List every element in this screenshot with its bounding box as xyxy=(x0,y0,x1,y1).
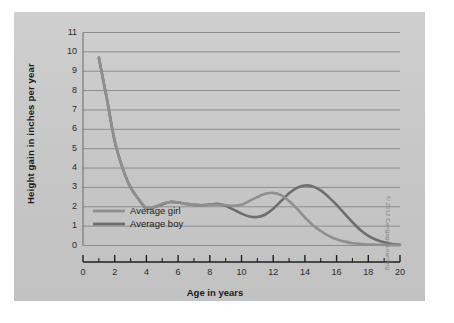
x-tick-marks-group xyxy=(83,255,400,262)
series-line-average-boy xyxy=(99,58,400,245)
x-tick-label: 18 xyxy=(357,267,379,277)
legend-swatches-group xyxy=(93,211,125,224)
x-tick-label: 10 xyxy=(231,267,253,277)
x-tick-label: 4 xyxy=(135,267,157,277)
y-tick-label: 3 xyxy=(55,181,77,191)
series-lines-group xyxy=(99,58,400,245)
x-tick-label: 0 xyxy=(72,267,94,277)
legend-label: Average girl xyxy=(130,205,181,216)
y-tick-label: 5 xyxy=(55,143,77,153)
y-tick-label: 2 xyxy=(55,201,77,211)
y-tick-label: 6 xyxy=(55,123,77,133)
y-tick-label: 11 xyxy=(55,27,77,37)
y-tick-label: 7 xyxy=(55,104,77,114)
x-tick-label: 2 xyxy=(104,267,126,277)
x-tick-label: 6 xyxy=(167,267,189,277)
x-tick-label: 16 xyxy=(326,267,348,277)
y-tick-label: 8 xyxy=(55,85,77,95)
figure-container: 01234567891011 02468101214161820 Height … xyxy=(0,0,454,323)
x-tick-label: 12 xyxy=(262,267,284,277)
x-tick-label: 8 xyxy=(199,267,221,277)
x-tick-label: 20 xyxy=(389,267,411,277)
legend-label: Average boy xyxy=(130,218,183,229)
x-axis-title: Age in years xyxy=(75,287,355,298)
y-tick-label: 4 xyxy=(55,162,77,172)
copyright-notice: © 2012 Cengage Learning xyxy=(385,196,392,306)
y-axis-title: Height gain in inches per year xyxy=(25,24,36,244)
y-tick-label: 0 xyxy=(55,240,77,250)
x-tick-label: 14 xyxy=(294,267,316,277)
y-tick-label: 1 xyxy=(55,220,77,230)
y-tick-label: 9 xyxy=(55,65,77,75)
y-tick-label: 10 xyxy=(55,46,77,56)
